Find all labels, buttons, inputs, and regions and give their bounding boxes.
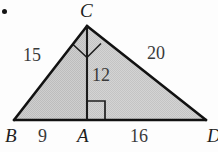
geometry-figure: C B A D 15 20 12 9 16 — [0, 0, 218, 152]
length-label-BA: 9 — [38, 127, 47, 145]
vertex-label-D: D — [207, 126, 218, 145]
length-label-CD: 20 — [147, 44, 165, 62]
length-label-BC: 15 — [23, 46, 41, 64]
length-label-AD: 16 — [130, 127, 148, 145]
length-label-CA: 12 — [92, 66, 110, 84]
vertex-label-B: B — [5, 126, 17, 145]
vertex-label-C: C — [80, 1, 93, 20]
vertex-label-A: A — [77, 126, 89, 145]
